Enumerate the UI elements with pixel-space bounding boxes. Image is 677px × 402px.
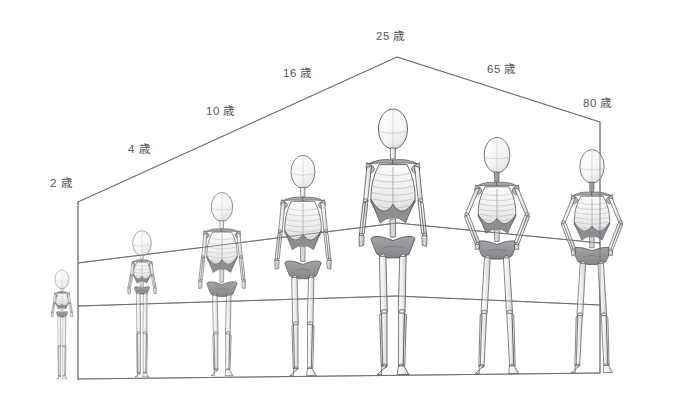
clavicle-left: [477, 182, 497, 186]
foot: [290, 369, 298, 376]
femur: [481, 258, 490, 313]
foot: [135, 373, 141, 377]
arm-right: [609, 197, 623, 255]
arm-left: [275, 203, 285, 270]
hand: [609, 251, 613, 256]
humerus: [279, 203, 285, 232]
leg-left: [135, 292, 141, 376]
foot: [377, 366, 387, 375]
humerus: [321, 203, 327, 232]
leg-left: [211, 294, 218, 376]
humerus: [237, 233, 242, 257]
lumbar-spine: [141, 281, 144, 287]
cervical-spine: [301, 188, 305, 197]
clavicle-left: [282, 197, 303, 201]
arm-right: [237, 233, 245, 288]
cervical-spine: [495, 172, 499, 182]
femur: [399, 256, 407, 312]
perspective-guide-frame-overlay: [78, 57, 600, 379]
cervical-spine: [141, 255, 144, 259]
clavicle-left: [573, 192, 592, 196]
arm-right: [150, 263, 157, 294]
leg-left: [475, 256, 490, 374]
leg-right: [398, 254, 409, 375]
age-label-2: 2 歳: [50, 178, 72, 190]
femur: [380, 256, 388, 312]
foot: [211, 370, 218, 376]
femur: [58, 317, 61, 346]
humerus: [515, 188, 529, 215]
hand: [475, 245, 479, 250]
pelvis: [56, 312, 67, 318]
femur: [63, 317, 66, 346]
pelvis: [371, 236, 415, 258]
lumbar-spine: [61, 308, 63, 312]
foot: [475, 366, 484, 374]
diagram-canvas: [0, 0, 677, 402]
age-label-16: 16 歳: [283, 68, 312, 80]
arm-right: [68, 294, 73, 317]
clavicle-left: [205, 229, 222, 232]
age-label-25: 25 歳: [376, 31, 405, 43]
foot: [603, 365, 612, 372]
arm-left: [359, 166, 371, 246]
leg-right: [225, 294, 233, 376]
clavicle-right: [62, 291, 69, 293]
pelvis: [477, 241, 518, 259]
guide-top-ridge: [78, 57, 600, 202]
leg-left: [571, 261, 585, 372]
arm-left: [561, 197, 575, 255]
skeleton-figure-fig-25: [359, 109, 427, 375]
foot: [509, 366, 519, 374]
leg-right: [598, 261, 612, 372]
arm-right: [515, 188, 530, 249]
pelvis: [573, 247, 612, 264]
clavicle-right: [592, 192, 611, 196]
femur: [143, 294, 147, 333]
arm-left: [199, 233, 207, 288]
cervical-spine: [220, 221, 223, 229]
cervical-spine: [590, 182, 594, 191]
humerus: [465, 188, 479, 215]
arm-left: [51, 294, 56, 317]
perspective-guide-frame: [78, 57, 600, 379]
hand: [571, 251, 575, 256]
skeleton-figure-fig-80: [561, 150, 622, 373]
humerus: [562, 197, 575, 222]
hand: [515, 245, 519, 250]
pelvis: [134, 287, 149, 295]
arm-right: [415, 166, 427, 246]
skeleton-figure-fig-2: [51, 270, 72, 379]
femur: [308, 278, 314, 324]
femur: [292, 278, 298, 324]
humerus: [609, 197, 622, 222]
foot: [307, 369, 316, 376]
humerus: [415, 166, 423, 201]
pelvis: [285, 261, 322, 279]
clavicle-right: [497, 182, 517, 186]
foot: [143, 373, 149, 377]
age-label-4: 4 歳: [128, 144, 150, 156]
leg-right: [143, 292, 149, 376]
leg-right: [307, 276, 316, 376]
cervical-spine: [61, 288, 63, 291]
age-label-10: 10 歳: [206, 106, 235, 118]
foot: [63, 376, 67, 379]
guide-top-ridge: [78, 57, 600, 202]
age-label-80: 80 歳: [583, 98, 612, 110]
femur: [577, 263, 585, 315]
lumbar-spine: [301, 247, 305, 262]
foot: [57, 376, 61, 379]
leg-right: [504, 256, 519, 374]
humerus: [364, 166, 372, 201]
femur: [137, 294, 141, 333]
clavicle-right: [303, 197, 324, 201]
lumbar-spine: [495, 230, 500, 242]
skeleton-figure-fig-10: [199, 192, 246, 375]
lumbar-spine: [390, 219, 395, 237]
arm-left: [464, 188, 479, 249]
pelvis: [207, 282, 237, 297]
femur: [504, 258, 513, 313]
skeleton-figure-fig-16: [275, 155, 331, 375]
age-label-65: 65 歳: [487, 64, 516, 76]
